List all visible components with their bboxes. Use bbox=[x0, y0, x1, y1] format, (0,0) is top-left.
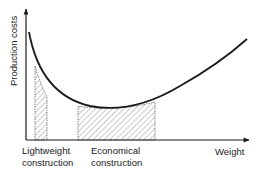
economical-label-line1: Economical bbox=[91, 145, 140, 156]
y-axis-label: Production costs bbox=[8, 16, 19, 86]
cost-weight-diagram: Production costs Weight Lightweight cons… bbox=[0, 0, 259, 174]
lightweight-label-line1: Lightweight bbox=[22, 145, 70, 156]
x-axis-label: Weight bbox=[215, 146, 245, 157]
cost-curve bbox=[29, 32, 247, 108]
economical-label-line2: construction bbox=[91, 157, 142, 168]
lightweight-region bbox=[35, 66, 47, 140]
lightweight-label-line2: construction bbox=[22, 157, 73, 168]
